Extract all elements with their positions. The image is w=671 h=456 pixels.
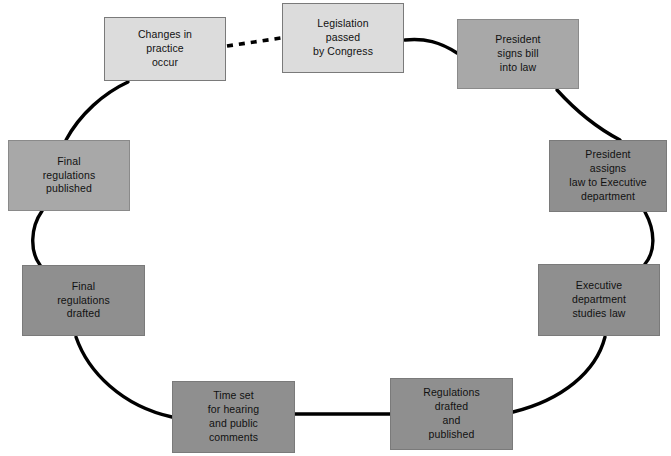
connector-time-to-final-drafted <box>76 337 172 417</box>
node-president-assigns-label: President assigns law to Executive depar… <box>565 148 650 203</box>
node-regulations-drafted-published-label: Regulations drafted and published <box>419 386 484 441</box>
node-final-regulations-published-label: Final regulations published <box>39 155 99 197</box>
flowchart-canvas: Legislation passed by Congress President… <box>0 0 671 456</box>
node-legislation-passed-label: Legislation passed by Congress <box>309 17 377 59</box>
connector-signs-to-assigns <box>557 90 620 140</box>
node-executive-studies[interactable]: Executive department studies law <box>538 264 660 336</box>
node-legislation-passed[interactable]: Legislation passed by Congress <box>282 3 404 73</box>
node-president-signs-label: President signs bill into law <box>491 33 544 75</box>
connector-studies-to-regulations <box>513 337 605 412</box>
connector-assigns-to-studies <box>645 212 653 264</box>
node-executive-studies-label: Executive department studies law <box>568 279 630 321</box>
node-regulations-drafted-published[interactable]: Regulations drafted and published <box>390 378 513 450</box>
connector-changes-to-legislation <box>227 38 281 46</box>
node-changes-in-practice-label: Changes in practice occur <box>134 28 196 70</box>
connector-legislation-to-signs <box>405 40 457 53</box>
node-final-regulations-published[interactable]: Final regulations published <box>8 140 130 211</box>
node-final-regulations-drafted-label: Final regulations drafted <box>53 280 113 322</box>
connector-final-published-to-changes <box>66 82 128 140</box>
connector-final-drafted-to-published <box>33 211 42 265</box>
node-president-signs[interactable]: President signs bill into law <box>457 19 579 89</box>
node-president-assigns[interactable]: President assigns law to Executive depar… <box>549 140 667 212</box>
node-time-set-hearing-label: Time set for hearing and public comments <box>204 389 263 444</box>
node-final-regulations-drafted[interactable]: Final regulations drafted <box>22 265 145 336</box>
node-changes-in-practice[interactable]: Changes in practice occur <box>104 17 226 81</box>
node-time-set-hearing[interactable]: Time set for hearing and public comments <box>172 381 295 453</box>
